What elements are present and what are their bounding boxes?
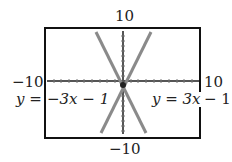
left-equation-expr: −3x − 1 (47, 92, 109, 107)
left-equation-prefix: y = (16, 92, 42, 107)
line-pos-slope (101, 32, 151, 133)
intersection-point (120, 82, 126, 88)
plot-area (0, 0, 232, 162)
right-equation-expr: y = 3x (152, 92, 201, 107)
right-equation-suffix: − 1 (204, 92, 231, 107)
